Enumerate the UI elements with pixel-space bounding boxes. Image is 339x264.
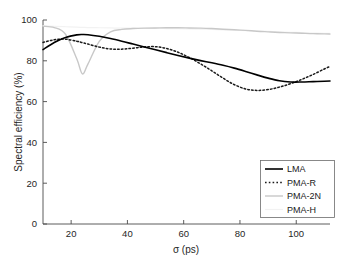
legend[interactable]: LMAPMA-RPMA-2NPMA-H xyxy=(261,161,335,218)
legend-label-pma-r: PMA-R xyxy=(287,178,317,188)
y-tick-label: 40 xyxy=(26,137,37,148)
x-tick-label: 80 xyxy=(235,228,246,239)
x-tick-label: 40 xyxy=(122,228,133,239)
x-tick-label: 60 xyxy=(178,228,189,239)
y-axis-label: Spectral efficiency (%) xyxy=(13,72,24,171)
legend-label-pma-2n: PMA-2N xyxy=(287,191,321,201)
y-tick-label: 100 xyxy=(21,14,37,25)
spectral-efficiency-line-chart: 020406080100 20406080100 Spectral effici… xyxy=(0,0,339,264)
figure-container: 020406080100 20406080100 Spectral effici… xyxy=(0,0,339,264)
y-tick-label: 0 xyxy=(32,218,37,229)
y-tick-label: 60 xyxy=(26,96,37,107)
y-tick-label: 80 xyxy=(26,55,37,66)
legend-label-pma-h: PMA-H xyxy=(287,205,316,215)
legend-label-lma: LMA xyxy=(287,164,306,174)
x-axis-label: σ (ps) xyxy=(173,244,199,255)
y-tick-label: 20 xyxy=(26,178,37,189)
x-tick-label: 100 xyxy=(288,228,304,239)
x-tick-label: 20 xyxy=(66,228,77,239)
